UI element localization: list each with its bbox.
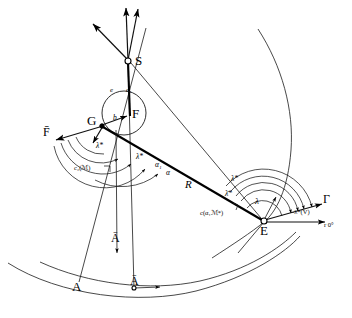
label-angle-lambda-bar-star-E: λ̄* (224, 189, 232, 198)
technical-diagram-svg: S F G E A e e₁ b F̄ λ* λ* α₁ α c₂(ℳ) R A… (0, 0, 352, 318)
label-segment-R: R (184, 178, 192, 190)
line-S-to-E (131, 63, 266, 224)
angle-arc-E-1 (241, 190, 291, 213)
label-angle-lambda-star-E: λ* (230, 174, 238, 183)
trajectory-curve (212, 29, 291, 258)
segment-G-E-R (103, 127, 262, 220)
label-point-E: E (260, 223, 268, 238)
point-marker-S (125, 58, 131, 64)
label-angle-alpha1: α₁ (155, 160, 162, 169)
label-angle-lambda-E: λ (254, 196, 259, 206)
angle-arc-E-3 (231, 176, 304, 209)
label-vector-A-bar-upper: Ā (111, 231, 120, 245)
label-point-G: G (87, 113, 96, 128)
label-vector-F-bar: F̄ (43, 125, 50, 139)
diagram-canvas: S F G E A e e₁ b F̄ λ* λ* α₁ α c₂(ℳ) R A… (0, 0, 352, 318)
point-marker-G (100, 124, 104, 128)
label-r-zero: r 0° (324, 221, 334, 228)
label-angle-lambda-star-G: λ* (135, 152, 143, 161)
rays-from-S (93, 8, 138, 60)
label-basis-e1: e₁ (126, 86, 132, 94)
label-curve-c2: c₂(ℳ) (74, 164, 90, 172)
label-curve-c-alpha: c(α₁ℳ*) (200, 209, 223, 217)
angle-arc-G-2 (68, 140, 118, 163)
label-point-A: A (72, 279, 82, 294)
ray-up-vertical-icon (126, 8, 128, 60)
label-angle-lambda-star-G-left: λ* (95, 141, 103, 150)
label-vector-A-bar-lower: Ā (130, 274, 139, 288)
label-point-S: S (135, 53, 142, 68)
ray-up-left-icon (93, 24, 128, 60)
label-basis-e: e (110, 86, 113, 94)
label-angle-b-GF: b (113, 113, 117, 122)
circle-at-F (102, 91, 146, 135)
label-Gamma: Γ (323, 192, 330, 206)
ground-arc-inner (40, 232, 296, 286)
label-angle-alpha: α (166, 168, 171, 177)
label-minus-lambda-star-V: -λ*(V) (292, 208, 310, 216)
label-point-F: F (132, 106, 139, 121)
